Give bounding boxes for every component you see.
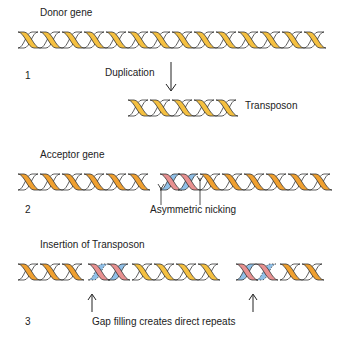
step-number-2: 2: [25, 204, 31, 215]
direct-repeat-arrows: [88, 294, 257, 312]
transposon-label: Transposon: [245, 100, 297, 111]
step-number-1: 1: [25, 70, 31, 81]
acceptor-gene-helix: [18, 174, 332, 190]
step-number-3: 3: [25, 316, 31, 327]
nick-pointer-lines: [158, 176, 203, 205]
transposon-helix: [128, 100, 238, 116]
gap-filling-label: Gap filling creates direct repeats: [92, 316, 235, 327]
transposition-diagram: [0, 0, 349, 339]
asymmetric-nicking-label: Asymmetric nicking: [150, 204, 236, 215]
duplication-label: Duplication: [105, 67, 154, 78]
donor-gene-label: Donor gene: [40, 7, 92, 18]
insertion-label: Insertion of Transposon: [40, 239, 145, 250]
duplication-arrow-icon: [166, 62, 176, 91]
insertion-helix: [18, 264, 324, 280]
acceptor-gene-label: Acceptor gene: [40, 149, 105, 160]
donor-gene-helix: [18, 32, 326, 48]
